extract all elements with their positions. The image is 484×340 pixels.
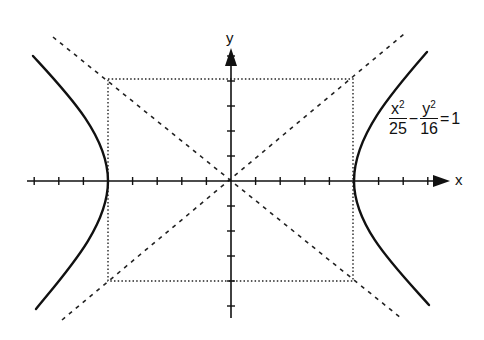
minus-operator: − [409,111,418,127]
asymptote-positive-slope [62,34,404,320]
y-axis-label: y [226,30,234,45]
y-axis [225,48,237,318]
hyperbola-right-branch [354,52,429,305]
x-denominator: 25 [389,119,407,137]
x-axis-label: x [455,172,463,187]
x-variable: x [391,100,399,117]
x-axis-arrow-icon [433,175,450,187]
x-axis [27,175,450,187]
y-exponent: 2 [430,99,436,110]
equals-sign: = [440,111,449,127]
equation-rhs: 1 [451,110,460,128]
hyperbola-equation: x2 25 − y2 16 = 1 [389,101,460,137]
y-denominator: 16 [420,119,438,137]
fraction-y-term: y2 16 [420,101,438,137]
x-exponent: 2 [399,99,405,110]
y-axis-arrow-icon [225,48,237,66]
fraction-x-term: x2 25 [389,101,407,137]
hyperbola-left-branch [33,56,108,309]
hyperbola-figure [0,0,484,340]
